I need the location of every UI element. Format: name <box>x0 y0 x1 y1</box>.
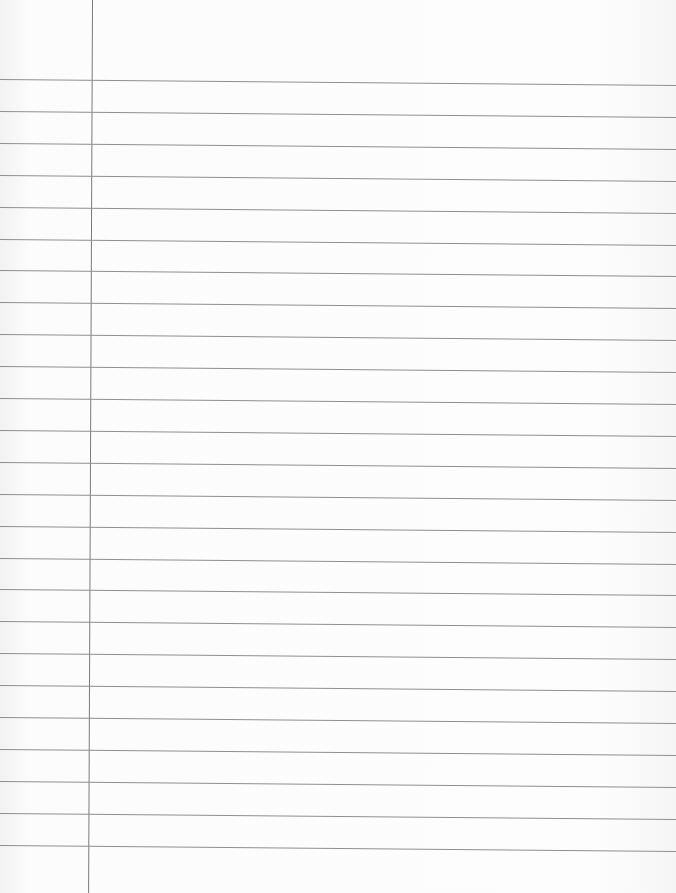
margin-line <box>88 0 93 893</box>
rule-line <box>0 589 676 596</box>
rule-line <box>0 79 676 86</box>
rule-line <box>0 302 676 309</box>
rule-line <box>0 239 676 246</box>
rule-line <box>0 430 676 437</box>
rule-line <box>0 781 676 788</box>
rule-line <box>0 685 676 692</box>
rule-line <box>0 813 676 820</box>
rule-line <box>0 845 676 852</box>
rule-line <box>0 143 676 150</box>
rule-line <box>0 749 676 756</box>
rule-line <box>0 398 676 405</box>
rule-line <box>0 270 676 277</box>
rule-line <box>0 494 676 501</box>
lined-paper <box>0 0 676 893</box>
rule-line <box>0 111 676 118</box>
rule-line <box>0 621 676 628</box>
rule-line <box>0 175 676 182</box>
rule-line <box>0 526 676 533</box>
rule-line <box>0 717 676 724</box>
rule-line <box>0 366 676 373</box>
rule-line <box>0 558 676 565</box>
rule-line <box>0 334 676 341</box>
rule-line <box>0 462 676 469</box>
rule-line <box>0 207 676 214</box>
rule-line <box>0 653 676 660</box>
